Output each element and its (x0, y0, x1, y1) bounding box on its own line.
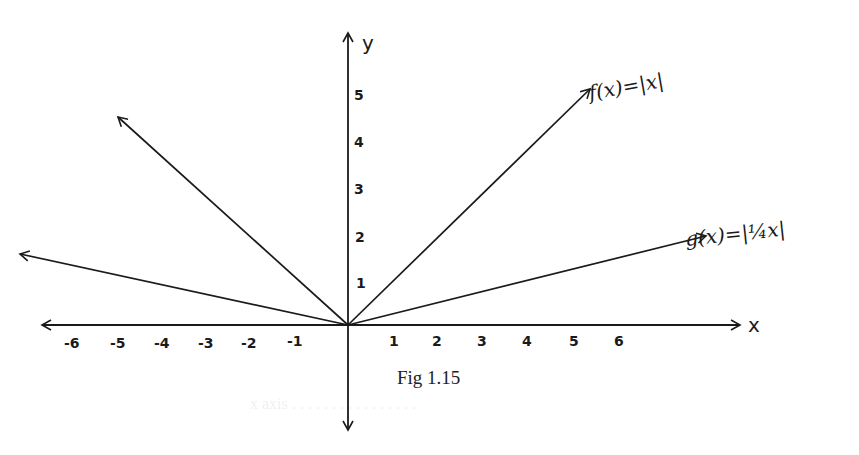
x-axis-label: x (748, 313, 760, 337)
y-tick-label: 4 (354, 134, 364, 150)
y-axis-label: y (362, 31, 374, 55)
y-tick-label: 1 (356, 275, 366, 291)
x-tick-label: 1 (389, 333, 399, 349)
x-tick-label: -1 (287, 333, 303, 349)
figure-caption: Fig 1.15 (397, 367, 460, 389)
figure: x axis . . . . . . . . . . . . . . . . y… (0, 0, 859, 455)
x-tick-label: 3 (477, 333, 487, 349)
x-tick-label: 6 (614, 333, 624, 349)
y-tick-label: 5 (354, 87, 364, 103)
x-tick-label: -6 (64, 335, 80, 351)
g-left-branch (20, 254, 348, 325)
y-tick-label: 2 (355, 229, 365, 245)
x-tick-label: 5 (569, 333, 579, 349)
f-right-branch (348, 89, 590, 325)
g-right-branch (348, 236, 706, 325)
x-tick-label: 4 (522, 333, 532, 349)
x-tick-label: -4 (154, 335, 170, 351)
y-tick-label: 3 (354, 181, 364, 197)
x-tick-label: 2 (432, 333, 442, 349)
x-tick-label: -3 (198, 335, 214, 351)
f-left-branch (118, 117, 348, 325)
x-tick-label: -5 (110, 335, 126, 351)
x-tick-label: -2 (241, 335, 257, 351)
f-function-label: f(x)=|x| (585, 68, 666, 106)
g-function-label: g(x)=|¼x| (684, 217, 787, 252)
